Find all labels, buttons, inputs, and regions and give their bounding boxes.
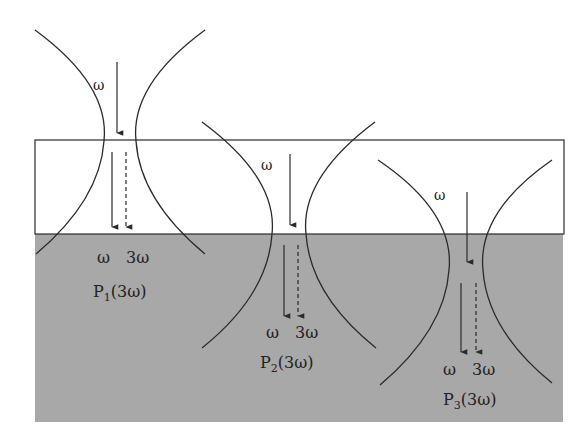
beam-3-polarization-label: P3(3ω) bbox=[443, 390, 496, 412]
beam-1-polarization-label: P1(3ω) bbox=[93, 282, 146, 304]
beam-3-incident-label: ω bbox=[434, 187, 445, 203]
beam-2-incident-label: ω bbox=[261, 157, 272, 173]
beam-3-harmonic-label: 3ω bbox=[472, 360, 495, 379]
beam-1-fundamental-label: ω bbox=[97, 248, 110, 267]
beam-2-harmonic-label: 3ω bbox=[295, 323, 318, 342]
beam-1-harmonic-label: 3ω bbox=[126, 248, 149, 267]
beam-2-polarization-label: P2(3ω) bbox=[260, 353, 313, 375]
beam-2-fundamental-label: ω bbox=[266, 323, 279, 342]
beam-1-incident-label: ω bbox=[93, 77, 104, 93]
film-layer bbox=[35, 140, 564, 234]
beam-3-fundamental-label: ω bbox=[443, 360, 456, 379]
third-harmonic-focus-diagram: ω ω 3ω P1(3ω) ω ω 3ω P2(3ω) ω ω 3ω P3(3ω… bbox=[0, 0, 588, 438]
